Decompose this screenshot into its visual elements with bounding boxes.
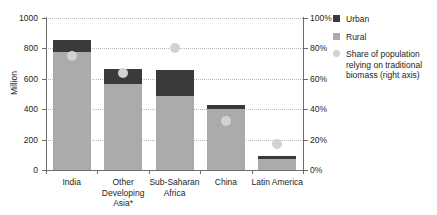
y-axis-right-line [303,17,304,171]
y-axis-left-tick-label: 1000 [4,14,38,23]
x-axis-tick [97,170,98,174]
plot-area [46,18,303,170]
x-axis-tick [200,170,201,174]
share-marker[interactable] [118,68,128,78]
legend-square-icon [333,15,340,22]
y-axis-right-tick [304,48,308,49]
bar-segment-urban [258,156,296,158]
x-axis-label: Latin America [246,177,308,188]
share-marker[interactable] [170,43,180,53]
legend-item-label: Rural [346,32,366,42]
y-axis-right-tick [304,79,308,80]
y-axis-right-tick [304,140,308,141]
legend-square-icon [333,33,340,40]
y-axis-left-tick-label: 200 [4,136,38,145]
y-axis-left-tick [42,48,46,49]
chart-container: Million 02004006008001000 0%20%40%60%80%… [0,0,437,215]
bar-segment-urban [207,105,245,109]
y-axis-right-tick [304,109,308,110]
x-axis-line [46,170,304,171]
bar-segment-rural [104,84,142,170]
y-axis-left-tick [42,109,46,110]
y-axis-left-line [46,17,47,171]
x-axis-tick [303,170,304,174]
bar-india[interactable] [53,18,91,170]
share-marker[interactable] [67,51,77,61]
x-axis-tick [149,170,150,174]
bar-sub-saharan-africa[interactable] [156,18,194,170]
legend-circle-icon [333,50,340,57]
y-axis-left-tick [42,140,46,141]
legend-item-label: Share of population relying on tradition… [346,49,422,80]
y-axis-left-tick-label: 400 [4,105,38,114]
y-axis-left-tick-label: 600 [4,75,38,84]
bar-segment-rural [53,52,91,170]
y-axis-left-tick [42,18,46,19]
y-axis-left-tick [42,79,46,80]
x-axis-tick [252,170,253,174]
y-axis-right-tick-label: 0% [310,166,352,175]
legend-item[interactable]: Urban [333,14,437,25]
bar-other-developing-asia[interactable] [104,18,142,170]
legend-item[interactable]: Rural [333,32,437,43]
y-axis-right-tick-label: 40% [310,105,352,114]
y-axis-right-tick [304,170,308,171]
x-axis-tick [46,170,47,174]
legend-item[interactable]: Share of population relying on tradition… [333,49,437,81]
bar-segment-urban [156,70,194,95]
legend-item-label: Urban [346,14,369,24]
y-axis-left-tick-label: 800 [4,44,38,53]
y-axis-right-tick-label: 20% [310,136,352,145]
y-axis-left-tick-label: 0 [4,166,38,175]
bar-segment-rural [258,159,296,170]
chart-legend: UrbanRuralShare of population relying on… [333,14,437,88]
y-axis-right-tick [304,18,308,19]
bar-segment-rural [156,96,194,170]
bar-china[interactable] [207,18,245,170]
